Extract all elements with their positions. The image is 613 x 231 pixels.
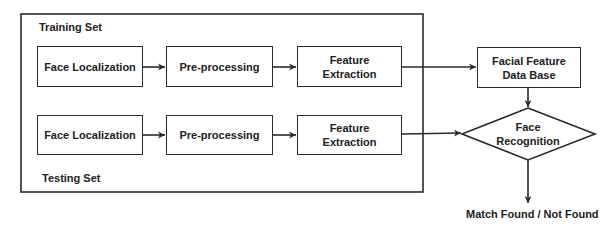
test-pre-processing-box: Pre-processing [166,115,273,155]
test-face-localization-text: Face Localization [44,128,136,142]
train-feature-extraction-text: Feature Extraction [302,53,397,81]
train-feature-extraction-box: Feature Extraction [297,46,402,87]
arrow-test-extraction-to-recognition [402,133,461,134]
test-feature-extraction-text: Feature Extraction [302,121,397,149]
training-set-label: Training Set [39,21,102,33]
train-face-localization-text: Face Localization [44,60,136,74]
facial-feature-database-text: Facial Feature Data Base [488,54,570,82]
facial-feature-database-box: Facial Feature Data Base [477,47,581,88]
testing-set-label: Testing Set [42,172,100,184]
test-feature-extraction-box: Feature Extraction [297,115,402,155]
test-face-localization-box: Face Localization [37,115,143,155]
face-recognition-text: Face Recognition [493,120,563,148]
test-pre-processing-text: Pre-processing [179,128,259,142]
sets-container [21,14,423,192]
train-pre-processing-text: Pre-processing [179,60,259,74]
match-output-label: Match Found / Not Found [466,208,599,220]
train-face-localization-box: Face Localization [37,46,143,87]
train-pre-processing-box: Pre-processing [166,46,273,87]
